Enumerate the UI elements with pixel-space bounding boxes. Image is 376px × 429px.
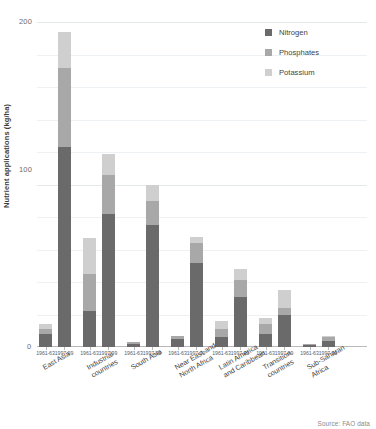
bar-0[interactable] [39, 324, 52, 347]
bar-segment-nitrogen [234, 297, 247, 347]
legend-label-phosphates: Phosphates [279, 48, 319, 57]
bar-segment-nitrogen [146, 225, 159, 347]
legend-swatch-phosphates [265, 49, 272, 56]
bar-6[interactable] [171, 336, 184, 347]
bar-8[interactable] [215, 321, 228, 347]
gridline-140 [37, 120, 367, 121]
legend-item-potassium[interactable]: Potassium [265, 62, 319, 82]
bar-segment-phosphates [58, 68, 71, 148]
chart-root: Nutrient applications (kg/ha) 200 100 0 … [0, 0, 376, 429]
bar-5[interactable] [146, 185, 159, 348]
bar-segment-nitrogen [215, 337, 228, 347]
bar-segment-potassium [278, 290, 291, 308]
bar-2[interactable] [83, 238, 96, 347]
bar-segment-nitrogen [190, 263, 203, 348]
bar-13[interactable] [322, 336, 335, 347]
bar-segment-potassium [58, 32, 71, 68]
legend-item-phosphates[interactable]: Phosphates [265, 42, 319, 62]
gridline-160 [37, 87, 367, 88]
bar-segment-phosphates [190, 243, 203, 263]
bar-segment-potassium [234, 269, 247, 280]
bar-segment-potassium [146, 185, 159, 201]
bar-segment-potassium [215, 321, 228, 329]
bar-segment-phosphates [146, 201, 159, 225]
bar-segment-nitrogen [102, 214, 115, 347]
bar-segment-potassium [83, 238, 96, 274]
bar-segment-nitrogen [83, 311, 96, 347]
bar-1[interactable] [58, 32, 71, 347]
source-note: Source: FAO data [318, 420, 370, 427]
legend: Nitrogen Phosphates Potassium [265, 22, 319, 82]
bar-segment-potassium [102, 154, 115, 175]
legend-label-potassium: Potassium [279, 68, 314, 77]
bar-7[interactable] [190, 237, 203, 348]
bar-segment-phosphates [234, 280, 247, 296]
bar-9[interactable] [234, 269, 247, 347]
legend-label-nitrogen: Nitrogen [279, 28, 308, 37]
bar-segment-nitrogen [171, 339, 184, 347]
gridline-100 [37, 185, 367, 186]
bar-11[interactable] [278, 290, 291, 347]
y-axis-title: Nutrient applications (kg/ha) [2, 104, 11, 208]
bar-segment-nitrogen [58, 147, 71, 347]
bar-segment-phosphates [215, 329, 228, 337]
bar-segment-phosphates [83, 274, 96, 311]
bar-segment-phosphates [259, 324, 272, 334]
bar-segment-phosphates [102, 175, 115, 214]
legend-swatch-potassium [265, 69, 272, 76]
bar-segment-nitrogen [39, 334, 52, 347]
bar-segment-nitrogen [278, 315, 291, 348]
legend-item-nitrogen[interactable]: Nitrogen [265, 22, 319, 42]
gridline-120 [37, 152, 367, 153]
bar-3[interactable] [102, 154, 115, 347]
legend-swatch-nitrogen [265, 29, 272, 36]
gridline-80 [37, 217, 367, 218]
bar-10[interactable] [259, 318, 272, 347]
